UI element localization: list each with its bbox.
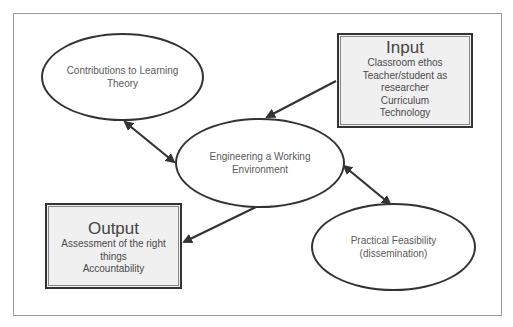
- node-label-line: Contributions to Learning: [67, 64, 179, 77]
- arrow-contributions-engineering: [125, 122, 174, 162]
- arrow-input-to-engineering: [267, 81, 336, 117]
- node-input: Input Classroom ethos Teacher/student as…: [337, 33, 473, 128]
- output-item: Assessment of the right: [47, 238, 180, 251]
- output-item: Accountability: [47, 263, 180, 276]
- node-label-line: Practical Feasibility: [351, 234, 437, 247]
- arrow-engineering-to-output: [184, 207, 256, 242]
- node-engineering-working-environment: Engineering a Working Environment: [175, 118, 345, 208]
- input-item: Classroom ethos: [339, 57, 471, 70]
- node-practical-feasibility: Practical Feasibility (dissemination): [311, 203, 476, 291]
- input-item: researcher: [339, 82, 471, 95]
- node-label-line: (dissemination): [351, 247, 437, 260]
- node-label-line: Environment: [210, 163, 311, 176]
- arrow-engineering-feasibility: [344, 166, 390, 204]
- node-output: Output Assessment of the right things Ac…: [45, 203, 182, 289]
- input-title: Input: [339, 38, 471, 57]
- output-title: Output: [47, 219, 180, 238]
- input-item: Curriculum: [339, 95, 471, 108]
- node-contributions-to-learning-theory: Contributions to Learning Theory: [41, 33, 204, 121]
- node-label-line: Engineering a Working: [210, 150, 311, 163]
- input-item: Teacher/student as: [339, 70, 471, 83]
- node-label-line: Theory: [67, 77, 179, 90]
- output-item: things: [47, 251, 180, 264]
- input-item: Technology: [339, 107, 471, 120]
